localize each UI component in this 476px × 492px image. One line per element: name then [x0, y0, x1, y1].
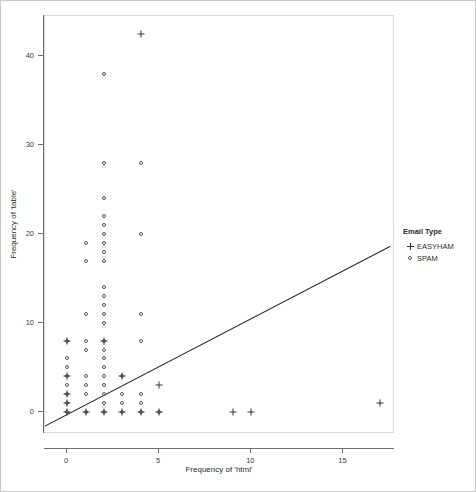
data-point-spam — [102, 374, 106, 378]
data-point-easyham — [100, 408, 107, 415]
data-point-easyham — [119, 408, 126, 415]
legend-item-easyham[interactable]: EASYHAM — [403, 240, 454, 252]
y-tick-mark — [38, 55, 43, 56]
data-point-spam — [84, 339, 88, 343]
x-tick-label: 10 — [246, 456, 254, 465]
data-point-spam — [139, 161, 143, 165]
data-point-easyham — [64, 337, 71, 344]
data-point-spam — [120, 392, 124, 396]
data-point-spam — [102, 259, 106, 263]
legend: Email Type EASYHAM SPAM — [403, 227, 454, 264]
data-point-easyham — [156, 408, 163, 415]
data-point-spam — [102, 214, 106, 218]
data-point-spam — [102, 223, 106, 227]
data-point-spam — [139, 401, 143, 405]
data-point-spam — [102, 285, 106, 289]
data-point-spam — [139, 232, 143, 236]
data-point-easyham — [137, 408, 144, 415]
x-tick-label: 0 — [64, 456, 68, 465]
data-point-easyham — [119, 373, 126, 380]
data-point-spam — [102, 161, 106, 165]
plot-panel — [44, 15, 394, 433]
legend-item-label: EASYHAM — [417, 242, 454, 251]
data-point-spam — [102, 348, 106, 352]
data-point-spam — [120, 401, 124, 405]
y-tick-label: 20 — [26, 228, 34, 237]
scatter-plot-figure: 051015 010203040 Frequency of 'html' Fre… — [0, 0, 476, 492]
y-tick-label: 0 — [30, 406, 34, 415]
data-point-spam — [65, 365, 69, 369]
y-axis-line — [43, 15, 44, 433]
y-tick-mark — [38, 411, 43, 412]
data-point-spam — [84, 241, 88, 245]
data-point-spam — [139, 339, 143, 343]
data-point-spam — [84, 312, 88, 316]
data-point-spam — [102, 321, 106, 325]
x-tick-mark — [158, 448, 159, 453]
x-axis-title: Frequency of 'html' — [44, 465, 394, 474]
plot-area — [45, 16, 393, 432]
open-circle-marker-icon — [403, 256, 417, 260]
x-tick-mark — [342, 448, 343, 453]
y-tick-label: 10 — [26, 317, 34, 326]
data-point-spam — [84, 383, 88, 387]
y-tick-label: 40 — [26, 51, 34, 60]
legend-item-spam[interactable]: SPAM — [403, 252, 454, 264]
y-tick-mark — [38, 144, 43, 145]
data-point-spam — [102, 392, 106, 396]
data-point-spam — [102, 232, 106, 236]
data-point-spam — [65, 356, 69, 360]
y-tick-mark — [38, 233, 43, 234]
data-point-spam — [102, 365, 106, 369]
data-point-easyham — [156, 382, 163, 389]
regression-line — [45, 16, 393, 432]
data-point-spam — [65, 383, 69, 387]
data-point-easyham — [64, 390, 71, 397]
x-tick-label: 5 — [156, 456, 160, 465]
data-point-spam — [139, 312, 143, 316]
data-point-easyham — [64, 399, 71, 406]
x-tick-label: 15 — [338, 456, 346, 465]
data-point-easyham — [100, 337, 107, 344]
legend-item-label: SPAM — [417, 254, 438, 263]
plus-marker-icon — [403, 243, 417, 250]
data-point-spam — [102, 312, 106, 316]
data-point-easyham — [229, 408, 236, 415]
y-axis-title: Frequency of 'table' — [9, 15, 21, 433]
data-point-easyham — [137, 30, 144, 37]
data-point-spam — [84, 348, 88, 352]
data-point-spam — [102, 250, 106, 254]
data-point-spam — [102, 294, 106, 298]
data-point-easyham — [248, 408, 255, 415]
data-point-spam — [102, 401, 106, 405]
data-point-spam — [102, 303, 106, 307]
data-point-spam — [102, 383, 106, 387]
legend-title: Email Type — [403, 227, 454, 236]
y-tick-label: 30 — [26, 139, 34, 148]
data-point-spam — [84, 392, 88, 396]
data-point-easyham — [64, 373, 71, 380]
data-point-spam — [102, 72, 106, 76]
data-point-spam — [102, 241, 106, 245]
x-tick-mark — [66, 448, 67, 453]
data-point-spam — [102, 356, 106, 360]
data-point-spam — [139, 392, 143, 396]
data-point-spam — [84, 259, 88, 263]
data-point-spam — [84, 374, 88, 378]
data-point-easyham — [82, 408, 89, 415]
data-point-easyham — [64, 408, 71, 415]
data-point-spam — [102, 196, 106, 200]
x-tick-mark — [250, 448, 251, 453]
data-point-easyham — [377, 399, 384, 406]
y-tick-mark — [38, 322, 43, 323]
